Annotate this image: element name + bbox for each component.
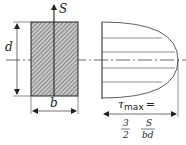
force-label: S <box>59 2 67 16</box>
fraction1-denominator: 2 <box>122 130 129 140</box>
height-label: d <box>5 40 13 54</box>
shear-stress-diagram: S d b τmax= 3 2 S bd <box>0 0 186 145</box>
fraction2-numerator: S <box>146 118 152 128</box>
fraction1-numerator: 3 <box>123 118 129 128</box>
fraction2-denominator: bd <box>142 130 154 140</box>
tau-max-label: τmax= <box>118 98 155 112</box>
width-label: b <box>50 96 58 110</box>
